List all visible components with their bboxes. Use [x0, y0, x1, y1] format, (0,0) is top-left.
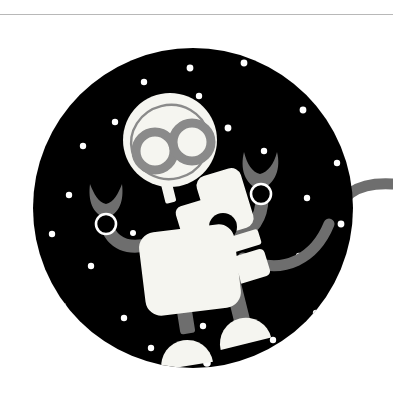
horizontal-rule: [0, 14, 393, 15]
star: [88, 263, 94, 269]
star: [130, 230, 136, 236]
star: [261, 148, 267, 154]
torso: [137, 222, 243, 317]
star: [196, 93, 202, 99]
star: [60, 303, 66, 309]
star: [334, 160, 340, 166]
star: [313, 310, 319, 316]
star: [270, 337, 276, 343]
star: [241, 60, 248, 67]
star: [121, 315, 127, 321]
star: [141, 79, 147, 85]
star: [80, 143, 86, 149]
illustration-svg: Astronaut robot floating in space Round …: [0, 18, 393, 418]
star: [225, 125, 232, 132]
star: [148, 345, 154, 351]
star: [338, 221, 345, 228]
star: [112, 119, 118, 125]
star: [66, 192, 72, 198]
right-claw-joint: [251, 184, 271, 204]
star: [300, 107, 307, 114]
star: [200, 323, 206, 329]
star: [49, 231, 55, 237]
head: [123, 93, 217, 187]
left-claw-joint: [96, 214, 116, 234]
star: [187, 65, 194, 72]
star: [304, 195, 310, 201]
robot-space-illustration: Astronaut robot floating in space Round …: [0, 18, 393, 418]
page-root: Astronaut robot floating in space Round …: [0, 0, 393, 418]
